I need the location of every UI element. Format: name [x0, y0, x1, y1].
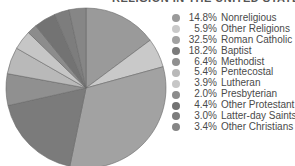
legend-dot-icon	[172, 123, 180, 131]
legend-label: Other Christians	[221, 122, 293, 133]
legend-item-baptist: 18.2%Baptist	[172, 46, 295, 57]
legend-dot-icon	[172, 112, 180, 120]
legend-dot-icon	[172, 14, 180, 22]
legend-dot-icon	[172, 80, 180, 88]
legend-dot-icon	[172, 47, 180, 55]
legend: 14.8%Nonreligious5.9%Other Religions32.5…	[172, 13, 295, 133]
legend-dot-icon	[172, 102, 180, 110]
pie-chart	[0, 0, 175, 166]
legend-label: Baptist	[221, 46, 252, 57]
legend-dot-icon	[172, 25, 180, 33]
legend-dot-icon	[172, 36, 180, 44]
legend-dot-icon	[172, 69, 180, 77]
legend-value: 18.2%	[187, 46, 217, 57]
legend-item-other-christians: 3.4%Other Christians	[172, 122, 295, 133]
legend-dot-icon	[172, 91, 180, 99]
legend-dot-icon	[172, 58, 180, 66]
legend-value: 3.4%	[187, 122, 217, 133]
